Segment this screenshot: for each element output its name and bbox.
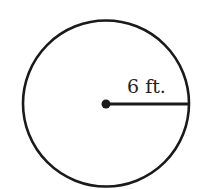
center-point (102, 100, 111, 109)
radius-label: 6 ft. (127, 75, 166, 97)
circle-diagram: 6 ft. (0, 0, 198, 189)
